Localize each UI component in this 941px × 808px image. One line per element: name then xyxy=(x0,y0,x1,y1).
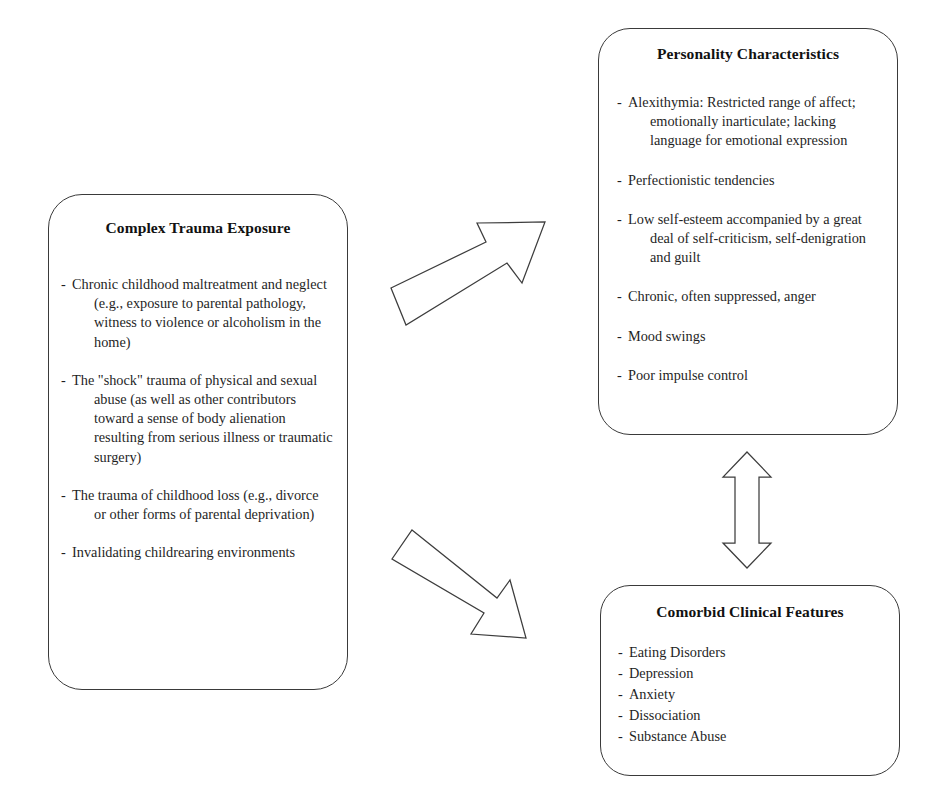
arrow-personality-comorbid-bidirectional-icon xyxy=(0,0,941,808)
diagram-canvas: Complex Trauma Exposure - Chronic childh… xyxy=(0,0,941,808)
